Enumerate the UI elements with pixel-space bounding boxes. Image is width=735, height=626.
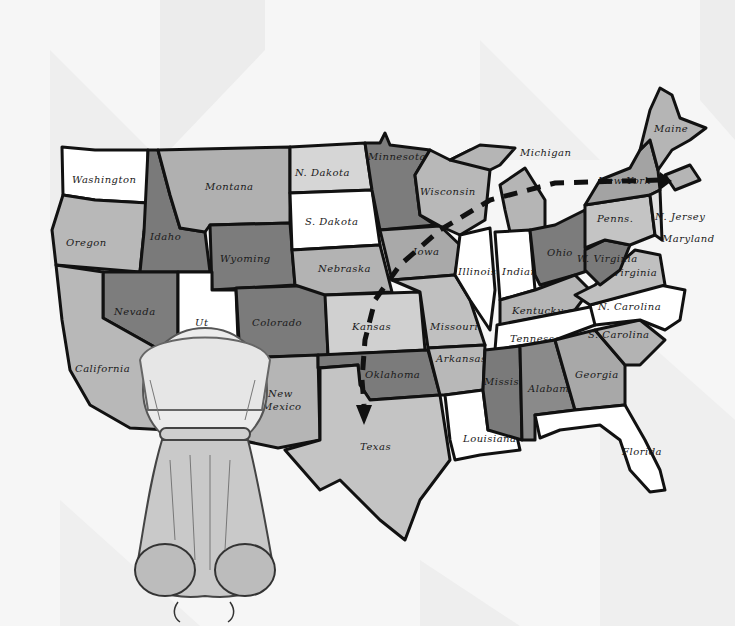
us-map: Washington Oregon Idaho Montana Wyoming … xyxy=(0,0,735,626)
state-label: Wyoming xyxy=(220,253,271,264)
state-label: Washington xyxy=(72,174,136,185)
state-label: Minnesota xyxy=(367,151,426,162)
state-wyoming: Wyoming xyxy=(210,223,295,290)
state-label: Texas xyxy=(360,441,391,452)
state-label: Florida xyxy=(621,446,662,457)
state-label: Georgia xyxy=(575,369,619,380)
state-label: Ohio xyxy=(547,247,573,258)
state-label: S. Carolina xyxy=(588,329,650,340)
state-label: California xyxy=(75,363,130,374)
state-label: Maine xyxy=(653,123,688,134)
state-maryland: Maryland xyxy=(661,233,715,244)
state-washington: Washington xyxy=(62,147,148,203)
state-label: Mexico xyxy=(261,401,302,412)
state-label: W. Virginia xyxy=(577,253,638,264)
state-label: N. Jersey xyxy=(654,211,705,222)
state-label: S. Dakota xyxy=(305,216,358,227)
state-label: Missouri xyxy=(429,321,478,332)
state-label: New xyxy=(267,388,293,399)
state-label: Ut xyxy=(195,317,209,328)
state-label: Michigan xyxy=(519,147,571,158)
state-label: Iowa xyxy=(412,246,440,257)
state-label: Idaho xyxy=(149,231,181,242)
state-label: Arkansas xyxy=(435,353,487,364)
state-label: Nevada xyxy=(113,306,156,317)
state-label: Wisconsin xyxy=(420,186,476,197)
state-kansas: Kansas xyxy=(325,292,425,355)
state-label: N. Carolina xyxy=(597,301,661,312)
state-label: Nebraska xyxy=(317,263,371,274)
state-oregon: Oregon xyxy=(52,195,148,272)
state-florida: Florida xyxy=(535,405,665,492)
state-label: N. Dakota xyxy=(294,167,350,178)
state-label: Montana xyxy=(204,181,254,192)
state-label: Maryland xyxy=(661,233,715,244)
state-nebraska: Nebraska xyxy=(292,245,392,295)
state-label: Oklahoma xyxy=(365,369,420,380)
state-n-dakota: N. Dakota xyxy=(290,143,372,193)
state-label: Illinois xyxy=(457,266,496,277)
state-label: Oregon xyxy=(66,237,107,248)
dog-illustration xyxy=(135,328,275,622)
state-label: Penns. xyxy=(596,213,633,224)
state-montana: Montana xyxy=(158,147,290,232)
state-s-dakota: S. Dakota xyxy=(290,190,380,250)
state-arkansas: Arkansas xyxy=(428,345,487,395)
state-label: Colorado xyxy=(252,317,302,328)
